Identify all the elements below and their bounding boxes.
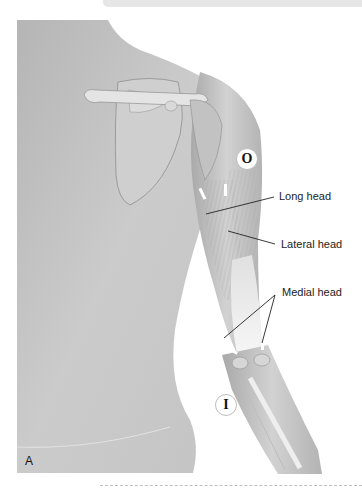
label-lateral-head: Lateral head — [281, 238, 342, 250]
label-long-head: Long head — [279, 190, 331, 202]
insertion-marker: I — [215, 394, 237, 416]
label-medial-head: Medial head — [282, 286, 342, 298]
leader-line-medial-head-2 — [262, 295, 275, 343]
panel-letter: A — [25, 454, 33, 468]
dashed-divider — [100, 485, 362, 486]
origin-marker: O — [236, 148, 258, 170]
